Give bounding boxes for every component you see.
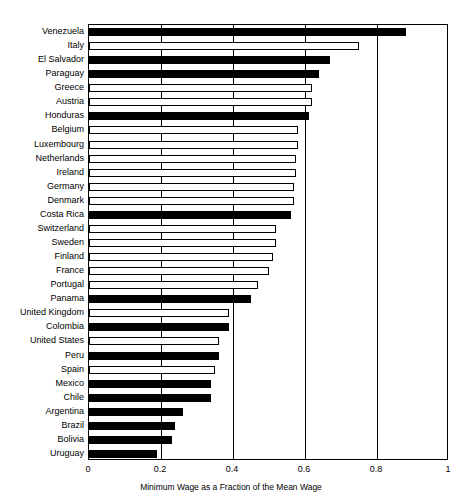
bar-row: [89, 334, 447, 348]
x-tick-0.2: 0.2: [154, 463, 167, 475]
category-label-brazil: Brazil: [0, 420, 84, 430]
bar-bolivia: [89, 436, 172, 444]
category-label-mexico: Mexico: [0, 378, 84, 388]
x-tick-1: 1: [445, 463, 450, 475]
bar-argentina: [89, 408, 183, 416]
bar-austria: [89, 98, 312, 106]
bar-row: [89, 39, 447, 53]
bar-germany: [89, 183, 294, 191]
bar-row: [89, 25, 447, 39]
bar-honduras: [89, 112, 309, 120]
category-label-bolivia: Bolivia: [0, 434, 84, 444]
bar-row: [89, 306, 447, 320]
x-tick-0.8: 0.8: [370, 463, 383, 475]
bar-united-states: [89, 337, 219, 345]
category-label-honduras: Honduras: [0, 110, 84, 120]
bar-peru: [89, 352, 219, 360]
category-label-netherlands: Netherlands: [0, 153, 84, 163]
bar-row: [89, 250, 447, 264]
category-label-switzerland: Switzerland: [0, 223, 84, 233]
bar-row: [89, 109, 447, 123]
bar-spain: [89, 366, 215, 374]
bar-united-kingdom: [89, 309, 229, 317]
bar-row: [89, 152, 447, 166]
bar-row: [89, 278, 447, 292]
bar-colombia: [89, 323, 229, 331]
x-tick-0.4: 0.4: [226, 463, 239, 475]
x-axis-title: Minimum Wage as a Fraction of the Mean W…: [0, 482, 462, 493]
bar-costa-rica: [89, 211, 291, 219]
category-label-spain: Spain: [0, 364, 84, 374]
bar-row: [89, 194, 447, 208]
category-label-austria: Austria: [0, 96, 84, 106]
bar-row: [89, 377, 447, 391]
category-label-sweden: Sweden: [0, 237, 84, 247]
category-label-belgium: Belgium: [0, 124, 84, 134]
category-label-finland: Finland: [0, 251, 84, 261]
bar-row: [89, 208, 447, 222]
bar-denmark: [89, 197, 294, 205]
bar-switzerland: [89, 225, 276, 233]
bar-row: [89, 405, 447, 419]
category-label-peru: Peru: [0, 350, 84, 360]
category-label-italy: Italy: [0, 40, 84, 50]
bar-row: [89, 447, 447, 461]
category-label-uruguay: Uruguay: [0, 448, 84, 458]
category-label-united-kingdom: United Kingdom: [0, 307, 84, 317]
bar-row: [89, 95, 447, 109]
bar-el-salvador: [89, 56, 330, 64]
bar-mexico: [89, 380, 211, 388]
bar-france: [89, 267, 269, 275]
bar-belgium: [89, 126, 298, 134]
bar-row: [89, 166, 447, 180]
category-label-greece: Greece: [0, 82, 84, 92]
category-label-germany: Germany: [0, 181, 84, 191]
bar-row: [89, 222, 447, 236]
bar-brazil: [89, 422, 175, 430]
bar-row: [89, 433, 447, 447]
category-label-chile: Chile: [0, 392, 84, 402]
category-label-argentina: Argentina: [0, 406, 84, 416]
category-label-ireland: Ireland: [0, 167, 84, 177]
minimum-wage-bar-chart: VenezuelaItalyEl SalvadorParaguayGreeceA…: [0, 0, 462, 499]
category-label-portugal: Portugal: [0, 279, 84, 289]
bar-row: [89, 264, 447, 278]
bar-row: [89, 236, 447, 250]
bar-chile: [89, 394, 211, 402]
bar-row: [89, 138, 447, 152]
bar-row: [89, 180, 447, 194]
x-tick-0.6: 0.6: [298, 463, 311, 475]
plot-area: [88, 24, 448, 460]
category-label-panama: Panama: [0, 293, 84, 303]
bar-row: [89, 348, 447, 362]
category-axis-labels: VenezuelaItalyEl SalvadorParaguayGreeceA…: [0, 24, 84, 460]
bar-row: [89, 81, 447, 95]
bar-finland: [89, 253, 273, 261]
bar-row: [89, 123, 447, 137]
category-label-venezuela: Venezuela: [0, 26, 84, 36]
category-label-costa-rica: Costa Rica: [0, 209, 84, 219]
category-label-france: France: [0, 265, 84, 275]
bar-row: [89, 292, 447, 306]
category-label-el-salvador: El Salvador: [0, 54, 84, 64]
bar-uruguay: [89, 450, 157, 458]
bar-ireland: [89, 169, 296, 177]
category-label-luxembourg: Luxembourg: [0, 139, 84, 149]
bar-luxembourg: [89, 141, 298, 149]
bar-greece: [89, 84, 312, 92]
bar-row: [89, 67, 447, 81]
bar-sweden: [89, 239, 276, 247]
bar-row: [89, 391, 447, 405]
bar-portugal: [89, 281, 258, 289]
bar-paraguay: [89, 70, 319, 78]
bar-panama: [89, 295, 251, 303]
x-tick-0: 0: [85, 463, 90, 475]
bar-netherlands: [89, 155, 296, 163]
bar-italy: [89, 42, 359, 50]
bar-row: [89, 53, 447, 67]
bar-venezuela: [89, 28, 406, 36]
category-label-denmark: Denmark: [0, 195, 84, 205]
category-label-paraguay: Paraguay: [0, 68, 84, 78]
bar-row: [89, 320, 447, 334]
bar-row: [89, 419, 447, 433]
